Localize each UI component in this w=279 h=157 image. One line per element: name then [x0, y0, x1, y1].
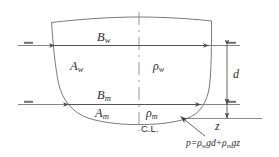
- label-beam-midship: Bm: [97, 89, 111, 103]
- label-depth-z: z: [215, 120, 220, 132]
- ship-section-diagram: Bw Aw ρw Bm Am ρm d z C.L. p=ρwgd+ρmgz: [0, 0, 279, 157]
- label-beam-waterline: Bw: [97, 31, 110, 45]
- label-area-midship: Am: [95, 107, 109, 121]
- label-density-mud: ρm: [146, 107, 158, 121]
- label-centerline: C.L.: [141, 123, 158, 134]
- label-density-water: ρw: [153, 60, 164, 74]
- label-pressure-formula: p=ρwgd+ρmgz: [186, 139, 240, 149]
- label-area-waterline: Aw: [70, 60, 83, 74]
- label-draft: d: [233, 68, 239, 80]
- pressure-leader-line: [181, 117, 206, 137]
